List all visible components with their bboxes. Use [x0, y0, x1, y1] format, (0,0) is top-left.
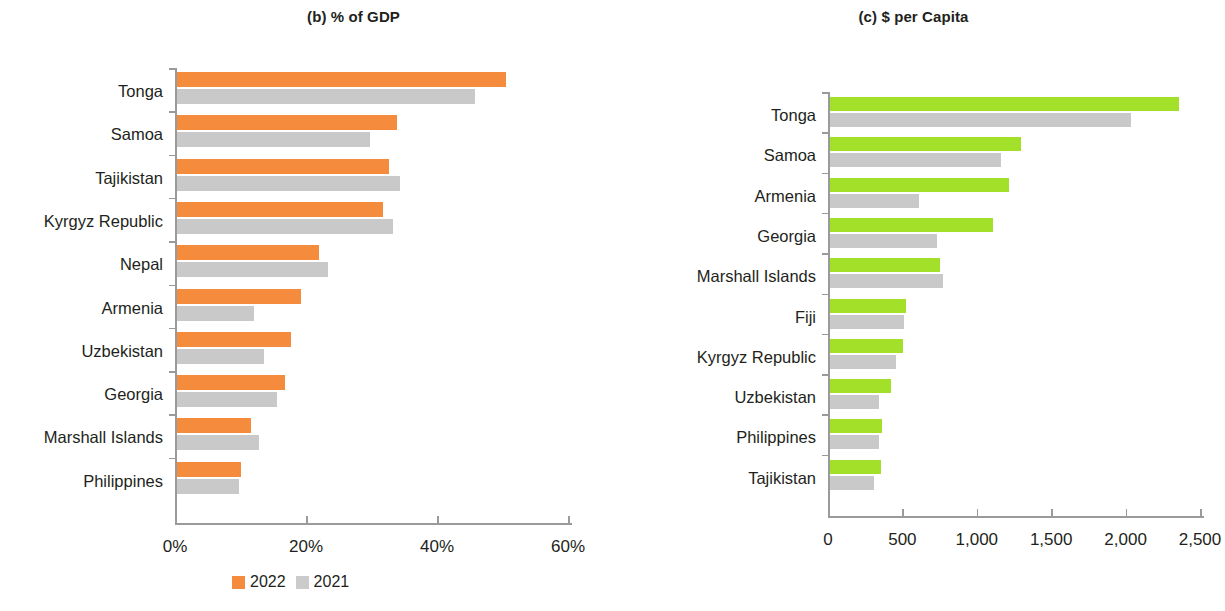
category-label: Fiji: [612, 309, 816, 326]
panel-c-title: (c) $ per Capita: [612, 8, 1225, 25]
x-axis-tick: [306, 516, 308, 523]
bar-2022: [830, 339, 904, 353]
bar-2021: [830, 315, 904, 329]
x-axis-tick: [828, 509, 830, 516]
category-label: Tonga: [0, 83, 163, 100]
y-axis-tick: [169, 285, 175, 287]
y-axis-tick: [822, 414, 828, 416]
y-axis-tick: [822, 253, 828, 255]
bar-2022: [830, 97, 1180, 111]
bar-2021: [177, 219, 393, 234]
bar-2022: [177, 462, 241, 477]
bar-2022: [177, 418, 252, 433]
category-label: Armenia: [612, 188, 816, 205]
panel-percent-of-gdp: (b) % of GDP TongaSamoaTajikistanKyrgyz …: [0, 0, 612, 611]
x-axis-tick-label: 500: [888, 530, 916, 550]
bar-2022: [177, 289, 301, 304]
bar-2021: [177, 89, 476, 104]
category-label: Samoa: [0, 126, 163, 143]
category-label: Tonga: [612, 107, 816, 124]
y-axis-tick: [822, 92, 828, 94]
x-axis-tick-label: 1,000: [956, 530, 999, 550]
panel-b-title: (b) % of GDP: [0, 8, 612, 25]
x-axis-tick-label: 0: [823, 530, 832, 550]
bar-2021: [830, 274, 944, 288]
bar-2021: [830, 153, 1001, 167]
category-label: Kyrgyz Republic: [0, 213, 163, 230]
bar-2021: [830, 435, 880, 449]
category-label: Philippines: [612, 429, 816, 446]
y-axis-tick: [822, 213, 828, 215]
bar-2022: [177, 332, 292, 347]
category-label: Georgia: [0, 386, 163, 403]
bar-2022: [177, 202, 383, 217]
bar-2022: [830, 419, 882, 433]
bar-2021: [177, 262, 329, 277]
bar-2021: [177, 349, 265, 364]
bar-2022: [177, 115, 397, 130]
bar-2022: [830, 460, 882, 474]
bar-2022: [177, 245, 319, 260]
category-label: Armenia: [0, 300, 163, 317]
bar-2022: [177, 375, 286, 390]
bar-2021: [177, 435, 260, 450]
category-label: Georgia: [612, 228, 816, 245]
y-axis-tick: [169, 241, 175, 243]
category-label: Philippines: [0, 473, 163, 490]
category-label: Uzbekistan: [0, 343, 163, 360]
plot-area-percent-of-gdp: TongaSamoaTajikistanKyrgyz RepublicNepal…: [0, 60, 612, 515]
legend-label-2022: 2022: [250, 574, 286, 590]
y-axis-tick: [822, 294, 828, 296]
y-axis-tick: [169, 68, 175, 70]
category-label: Uzbekistan: [612, 389, 816, 406]
bar-2021: [177, 176, 400, 191]
y-axis-tick: [822, 374, 828, 376]
bar-2021: [830, 395, 879, 409]
x-axis-tick-label: 20%: [289, 537, 323, 557]
bar-2022: [177, 72, 506, 87]
x-axis-line: [175, 523, 572, 525]
category-label: Samoa: [612, 147, 816, 164]
x-axis-tick: [175, 516, 177, 523]
bar-2021: [830, 113, 1131, 127]
legend-swatch-2022-icon: [232, 576, 245, 589]
y-axis-tick: [169, 414, 175, 416]
category-label: Tajikistan: [612, 470, 816, 487]
category-label: Nepal: [0, 256, 163, 273]
y-axis-tick: [822, 455, 828, 457]
bar-2022: [830, 299, 907, 313]
bar-2021: [177, 392, 277, 407]
category-label: Kyrgyz Republic: [612, 349, 816, 366]
category-label: Marshall Islands: [612, 268, 816, 285]
legend-item-2021: 2021: [296, 574, 350, 590]
legend-percent-of-gdp: 2022 2021: [232, 574, 349, 590]
legend-label-2021: 2021: [314, 574, 350, 590]
bar-2021: [830, 234, 937, 248]
y-axis-tick: [169, 371, 175, 373]
x-axis-tick: [1051, 509, 1053, 516]
x-axis-tick-label: 0%: [163, 537, 188, 557]
x-axis-tick: [437, 516, 439, 523]
x-axis-tick-label: 2,000: [1104, 530, 1147, 550]
y-axis-tick: [169, 328, 175, 330]
bar-2021: [830, 476, 875, 490]
figure-root: (b) % of GDP TongaSamoaTajikistanKyrgyz …: [0, 0, 1225, 611]
x-axis-tick: [1200, 509, 1202, 516]
x-axis-tick: [902, 509, 904, 516]
y-axis-tick: [822, 132, 828, 134]
y-axis-tick: [169, 458, 175, 460]
bar-2022: [830, 258, 940, 272]
y-axis-tick: [822, 334, 828, 336]
bar-2022: [830, 218, 994, 232]
category-label: Tajikistan: [0, 170, 163, 187]
x-axis-tick-label: 60%: [551, 537, 585, 557]
bar-2021: [830, 194, 919, 208]
bar-2022: [830, 137, 1021, 151]
y-axis-tick: [169, 198, 175, 200]
x-axis-tick-label: 1,500: [1030, 530, 1073, 550]
x-axis-tick: [1126, 509, 1128, 516]
bar-2021: [177, 479, 239, 494]
x-axis-tick: [568, 516, 570, 523]
bar-2022: [830, 178, 1009, 192]
category-label: Marshall Islands: [0, 429, 163, 446]
